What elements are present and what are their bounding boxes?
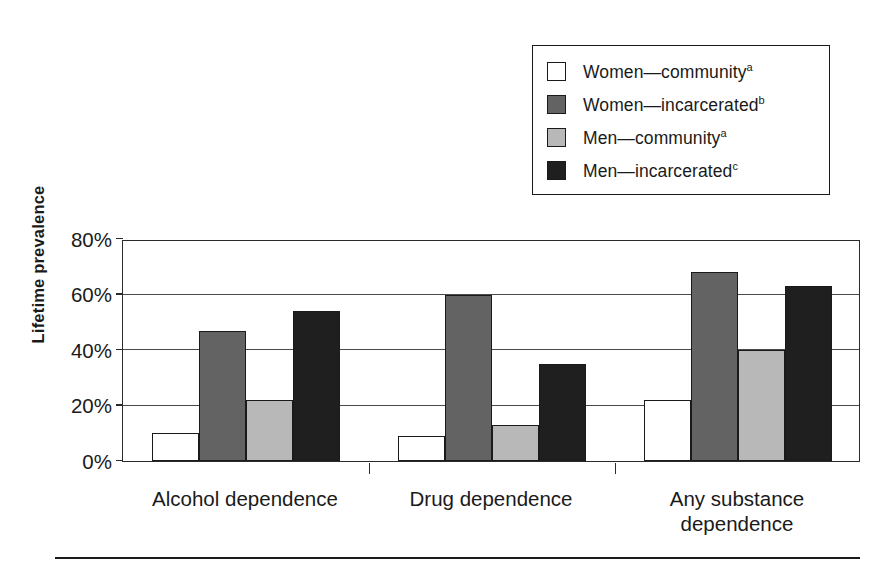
chart-legend: Women—communityaWomen—incarceratedbMen—c… [532,45,830,195]
x-axis-category-label: Alcohol dependence [122,486,368,511]
legend-item: Women—incarceratedb [547,88,829,121]
y-axis-tick-labels: 0%20%40%60%80% [46,240,112,462]
bar [293,311,340,461]
plot-area [122,240,860,462]
bar [492,425,539,461]
bar [644,400,691,461]
bar [199,331,246,461]
legend-item-label: Women—incarceratedb [583,94,765,116]
bar [539,364,586,461]
x-axis-group-tick [615,463,616,474]
legend-item-label: Men—incarceratedc [583,160,738,182]
x-axis-group-tick [369,463,370,474]
y-axis-tick-label: 20% [71,396,112,417]
bar [445,295,492,462]
legend-swatch [547,161,566,180]
y-axis-tick-label: 0% [82,452,112,473]
legend-item-label: Women—communitya [583,61,753,83]
legend-item-label: Men—communitya [583,127,727,149]
y-axis-title: Lifetime prevalence [29,165,48,365]
x-axis-category-label: Drug dependence [368,486,614,511]
legend-swatch [547,128,566,147]
bar [152,433,199,461]
legend-item: Women—communitya [547,55,829,88]
bar [785,286,832,461]
y-axis-tick [116,293,123,294]
legend-footnote-marker: a [747,61,753,73]
y-axis-tick-label: 80% [71,230,112,251]
bar [398,436,445,461]
legend-swatch [547,62,566,81]
legend-item: Men—communitya [547,121,829,154]
bar [691,272,738,461]
legend-footnote-marker: b [759,94,765,106]
bar [246,400,293,461]
y-axis-tick [116,460,123,461]
bottom-divider [55,557,860,559]
y-axis-tick-label: 60% [71,285,112,306]
y-axis-tick [116,238,123,239]
y-axis-tick [116,349,123,350]
y-axis-tick-label: 40% [71,341,112,362]
legend-swatch [547,95,566,114]
legend-item: Men—incarceratedc [547,154,829,187]
legend-footnote-marker: a [720,127,726,139]
bar [738,350,785,461]
legend-footnote-marker: c [732,160,738,172]
y-axis-tick [116,404,123,405]
x-axis-category-label: Any substance dependence [614,486,860,536]
